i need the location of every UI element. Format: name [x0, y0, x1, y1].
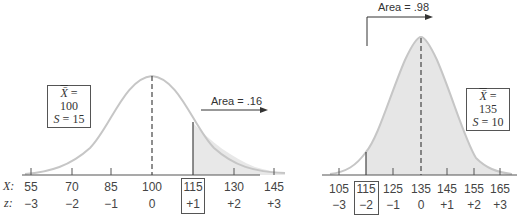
right-x-label: 155 — [464, 182, 484, 196]
left-x-label: 100 — [142, 180, 162, 194]
left-x-label: 55 — [24, 180, 37, 194]
left-x-label: 130 — [224, 180, 244, 194]
left-mean-symbol: X̄ — [60, 86, 67, 100]
right-area-label: Area = .98 — [378, 1, 429, 13]
left-z-label: −1 — [104, 197, 118, 211]
right-highlight-box — [354, 181, 379, 215]
left-sd-symbol: S — [54, 112, 60, 126]
left-z-label: −3 — [24, 197, 38, 211]
left-stats-box: X̄ = 100 S = 15 — [47, 85, 91, 128]
right-z-label: −1 — [386, 198, 400, 212]
right-z-label: 0 — [418, 198, 425, 212]
right-stats-box: X̄ = 135 S = 10 — [466, 88, 510, 131]
right-x-label: 125 — [383, 182, 403, 196]
right-z-label: +2 — [467, 198, 481, 212]
right-x-label: 145 — [437, 182, 457, 196]
left-z-label: +3 — [267, 197, 281, 211]
left-z-label: −2 — [65, 197, 79, 211]
right-sd-value: = 10 — [482, 115, 504, 129]
left-z-label: +2 — [227, 197, 241, 211]
right-x-label: 135 — [411, 182, 431, 196]
x-row-label: X: — [3, 179, 14, 194]
left-z-label: 0 — [149, 197, 156, 211]
left-x-label: 145 — [264, 180, 284, 194]
right-z-label: +1 — [440, 198, 454, 212]
right-x-label: 165 — [490, 182, 510, 196]
right-mean-symbol: X̄ — [479, 89, 486, 103]
right-z-label: −3 — [332, 198, 346, 212]
left-x-label: 85 — [104, 180, 117, 194]
right-x-label: 105 — [329, 182, 349, 196]
right-z-label: +3 — [493, 198, 507, 212]
right-sd-symbol: S — [473, 115, 479, 129]
left-shaded-area — [193, 123, 285, 175]
left-sd-value: = 15 — [63, 112, 85, 126]
left-highlight-box — [181, 178, 205, 214]
left-x-label: 70 — [65, 180, 78, 194]
z-row-label: z: — [4, 196, 13, 211]
left-area-label: Area = .16 — [211, 95, 262, 107]
